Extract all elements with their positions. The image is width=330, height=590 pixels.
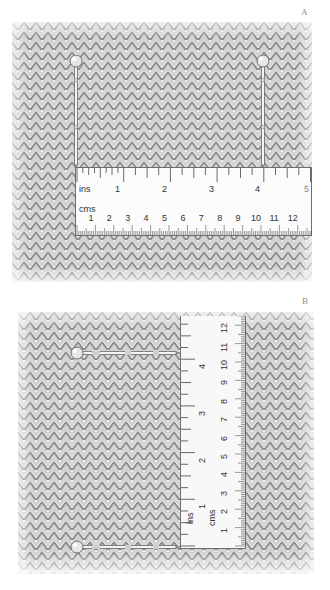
cm-number: 10 — [219, 360, 229, 370]
pin-left — [69, 55, 83, 171]
cm-number: 1 — [88, 213, 93, 223]
cm-number: 4 — [197, 364, 207, 369]
inch-number: 2 — [162, 184, 167, 194]
inch-number: 5 — [304, 184, 309, 194]
cm-number: 1 — [219, 528, 229, 533]
cm-number: 11 — [269, 213, 278, 223]
pin-bottom — [70, 540, 182, 554]
cm-number: cms — [207, 510, 217, 527]
cm-number: 12 — [219, 323, 229, 333]
pin-icon — [70, 540, 182, 554]
cm-number: 5 — [219, 454, 229, 459]
cm-number: 1 — [197, 504, 207, 509]
cm-number: 4 — [219, 472, 229, 477]
cm-number: 2 — [197, 458, 207, 463]
pin-top — [70, 346, 182, 360]
panel-label-b: B — [302, 296, 308, 306]
inch-number: 4 — [255, 184, 260, 194]
inch-unit-label: ins — [79, 184, 91, 194]
cm-number: 2 — [107, 213, 112, 223]
cm-number: 12 — [288, 213, 298, 223]
ruler-horizontal: ins cms 1 2 3 4 5 123456789101112 — [75, 167, 312, 236]
cm-number: 7 — [199, 213, 204, 223]
cm-number: 7 — [219, 417, 229, 422]
cm-number: 8 — [219, 399, 229, 404]
cm-number: 6 — [219, 436, 229, 441]
cm-number: 4 — [144, 213, 149, 223]
pin-right — [256, 55, 270, 171]
panel-label-a: A — [301, 7, 308, 17]
cm-number: 9 — [236, 213, 241, 223]
cm-number: 9 — [219, 380, 229, 385]
inch-number: 1 — [115, 184, 120, 194]
ruler-vertical: inscms1234123456789101112 — [180, 316, 246, 549]
cm-number: 10 — [251, 213, 261, 223]
ruler-tick-marks — [76, 168, 313, 237]
cm-number: 2 — [219, 509, 229, 514]
pin-icon — [70, 346, 182, 360]
pin-icon — [256, 55, 270, 171]
pin-icon — [69, 55, 83, 171]
cm-number: 5 — [162, 213, 167, 223]
cm-number: 8 — [217, 213, 222, 223]
cm-number: 6 — [180, 213, 185, 223]
cm-number: 3 — [219, 491, 229, 496]
inch-number: 3 — [209, 184, 214, 194]
cm-number: 11 — [219, 342, 229, 351]
cm-number: ins — [185, 512, 195, 524]
cm-number: 3 — [125, 213, 130, 223]
cm-number: 3 — [197, 411, 207, 416]
